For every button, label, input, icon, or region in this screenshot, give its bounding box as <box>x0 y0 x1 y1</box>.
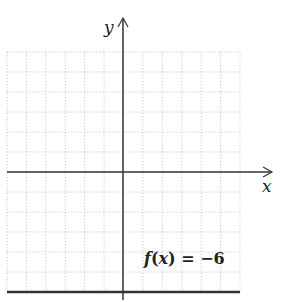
coordinate-plane: y x f(x) = −6 <box>0 0 282 302</box>
function-label: f(x) = −6 <box>143 249 225 268</box>
y-axis-label: y <box>103 17 114 37</box>
x-axis-label: x <box>262 176 272 196</box>
